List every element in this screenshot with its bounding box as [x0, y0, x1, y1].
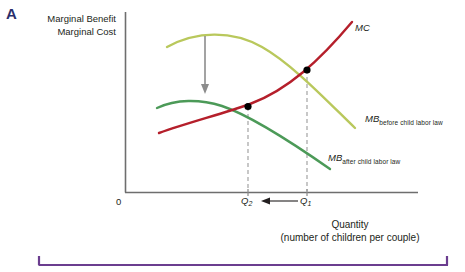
quantity-decrease-arrow-head — [261, 198, 270, 205]
figure-panel-a: A Marginal Benefit Marginal Cost — [0, 0, 465, 272]
curve-label-mb-before-base: MB — [365, 113, 379, 124]
x-tick-label-q1-subscript: 1 — [307, 200, 311, 207]
curve-label-mb-before-subscript: before child labor law — [379, 119, 443, 126]
curve-label-mb-after-subscript: after child labor law — [342, 158, 400, 165]
x-tick-label-q2-subscript: 2 — [248, 200, 252, 207]
shift-arrow-head — [201, 84, 209, 94]
curve-label-mb-after-base: MB — [328, 152, 342, 163]
x-tick-label-q1: Q1 — [300, 195, 311, 206]
x-axis-title-line-2: (number of children per couple) — [238, 231, 462, 244]
x-tick-label-q2: Q2 — [241, 195, 252, 206]
curve-label-mb-before: MBbefore child labor law — [365, 113, 443, 124]
equilibrium-dot-q2 — [244, 103, 251, 110]
equilibrium-dot-q1 — [303, 66, 310, 73]
origin-label: 0 — [116, 196, 121, 207]
curve-label-mb-after: MBafter child labor law — [328, 152, 400, 163]
curve-mb-after-child-labor-law — [157, 101, 330, 169]
x-axis-title-line-1: Quantity — [238, 218, 462, 231]
x-axis-title: Quantity (number of children per couple) — [238, 218, 462, 244]
curve-label-mc: MC — [355, 22, 370, 33]
